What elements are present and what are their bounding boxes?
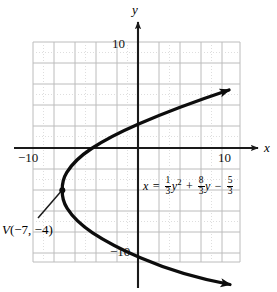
equation-term1-exponent: 2 [177, 177, 181, 187]
fraction-one-third: 1 3 [165, 176, 172, 197]
vertex-leader-line [38, 192, 61, 218]
vertex-coordinates: (−7, −4) [10, 222, 53, 237]
grid-lines [33, 42, 240, 262]
fraction-numerator: 1 [165, 176, 172, 186]
fraction-denominator: 3 [227, 186, 234, 197]
parabola-lower-branch [62, 190, 230, 284]
tick-label-x-10: 10 [218, 150, 231, 166]
fraction-denominator: 3 [198, 186, 205, 197]
equation-operator-minus: − [215, 179, 222, 193]
fraction-eight-thirds: 8 3 [198, 176, 205, 197]
tick-label-y-10: 10 [112, 36, 125, 52]
equation-lhs: x [143, 179, 148, 193]
equation-term2-variable: y [205, 179, 210, 193]
grid-dotted-overlay [33, 42, 240, 262]
graph-canvas [0, 0, 277, 292]
fraction-denominator: 3 [165, 186, 172, 197]
y-axis-label: y [132, 2, 138, 18]
vertex-annotation: V(−7, −4) [2, 222, 53, 238]
fraction-numerator: 5 [227, 176, 234, 186]
equation-operator-plus: + [186, 179, 193, 193]
tick-label-y-neg10: −10 [110, 244, 130, 260]
vertex-letter: V [2, 222, 10, 237]
fraction-numerator: 8 [198, 176, 205, 186]
tick-label-x-neg10: −10 [18, 150, 38, 166]
x-axis-label: x [264, 140, 270, 156]
parabola-figure: y x 10 −10 10 −10 V(−7, −4) x = 1 3 y2 +… [0, 0, 277, 292]
equation-annotation: x = 1 3 y2 + 8 3 y − 5 3 [143, 176, 234, 197]
fraction-five-thirds: 5 3 [227, 176, 234, 197]
equation-equals-sign: = [153, 179, 160, 193]
